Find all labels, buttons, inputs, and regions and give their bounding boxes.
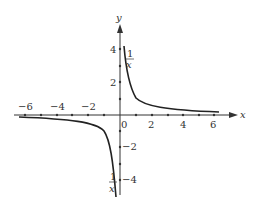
origin-label: 0 <box>121 119 127 130</box>
x-tick-label: 6 <box>210 119 216 130</box>
curve-positive-branch <box>124 46 219 112</box>
svg-text:x: x <box>109 183 115 194</box>
y-tick-label: −4 <box>122 174 137 185</box>
annotation-upper: 1 x <box>126 48 134 70</box>
y-tick-label: 2 <box>110 77 116 88</box>
y-tick-label: −2 <box>122 141 137 152</box>
x-tick-label: 2 <box>148 119 154 130</box>
x-axis-label: x <box>240 109 246 120</box>
x-tick-label: −6 <box>18 101 33 112</box>
y-axis-arrow-icon <box>117 24 123 33</box>
curve-negative-branch <box>19 117 116 197</box>
graph-of-reciprocal-function: −6 −4 −2 0 2 4 6 4 2 −2 −4 x y 1 x 1 x <box>0 0 255 206</box>
x-tick-label: −2 <box>81 101 96 112</box>
svg-text:x: x <box>126 59 132 70</box>
svg-text:1: 1 <box>127 48 133 59</box>
y-axis-label: y <box>115 12 122 23</box>
x-axis-arrow-icon <box>229 112 238 118</box>
y-tick-label: 4 <box>110 44 116 55</box>
svg-text:1: 1 <box>110 171 116 182</box>
x-tick-label: −4 <box>50 101 65 112</box>
x-tick-label: 4 <box>180 119 186 130</box>
